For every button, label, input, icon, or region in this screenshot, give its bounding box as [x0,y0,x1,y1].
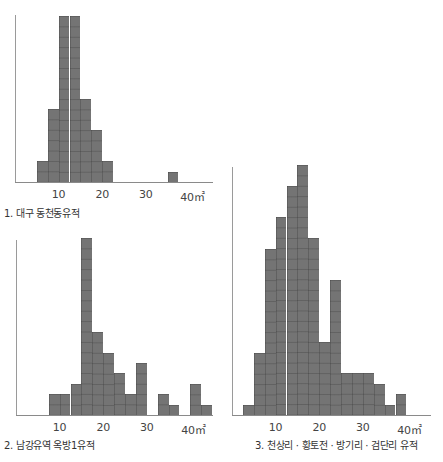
histogram-bar [265,249,276,415]
x-tick-label: 20 [312,421,326,434]
x-tick-label: 10 [269,421,283,434]
histogram-bar [341,373,352,415]
histogram-bar [319,342,330,415]
histogram-bar [363,373,374,415]
histogram-bar [287,186,298,415]
histogram-bar [396,394,407,415]
chart-caption: 3. 천상리 · 황토전 · 방기리 · 검단리 유적 [255,437,417,452]
histogram-3: 10203040㎡3. 천상리 · 황토전 · 방기리 · 검단리 유적 [0,0,443,462]
histogram-bar [308,238,319,415]
histogram-bar [254,353,265,415]
histogram-bar [374,384,385,415]
histogram-bar [276,217,287,415]
x-axis-line [232,415,431,416]
x-tick-label: 30 [356,421,370,434]
x-tick-label: 40㎡ [397,421,421,437]
histogram-bar [243,405,254,415]
histogram-bar [385,405,396,415]
histogram-bar [330,280,341,415]
y-axis-line [232,167,233,415]
histogram-bar [297,165,308,415]
histogram-bar [352,373,363,415]
